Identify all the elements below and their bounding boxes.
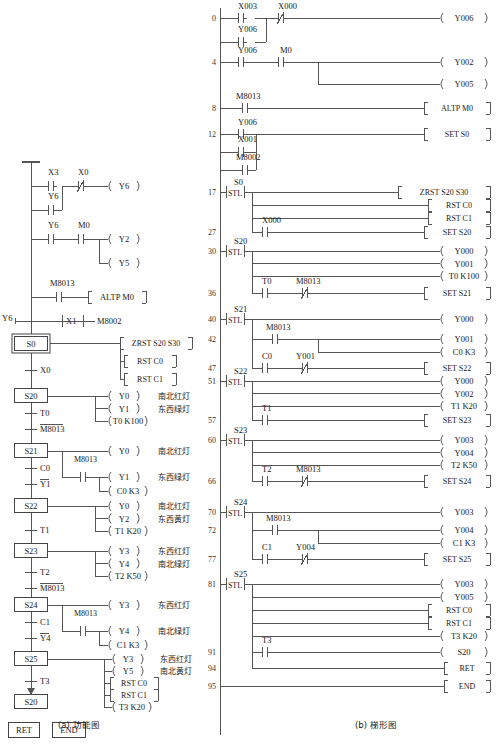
label-T0-S20: T0 (262, 276, 271, 286)
coil-y5-rparen (137, 258, 139, 268)
stl-s24-text: STL (228, 509, 242, 518)
label-y006-r12: Y006 (238, 117, 257, 127)
coil-S22-1-rparen (485, 389, 487, 399)
transition-label-C1: C1 (40, 617, 50, 627)
stl-S20-text: STL (228, 248, 242, 257)
coil-y6-label: Y6 (119, 181, 129, 191)
transition-label-X0: X0 (40, 365, 50, 375)
coil-s25-label-1: Y5 (123, 666, 133, 676)
coil-s25-1-label: Y005 (455, 592, 474, 602)
coil-S20-0-label: Y000 (455, 246, 474, 256)
coil-s20-1-lparen (109, 404, 111, 414)
coil-s25-4-lparen (441, 631, 443, 641)
coil-s21-2-rparen (145, 486, 147, 496)
box-set-s20-label: SET S20 (443, 228, 472, 237)
coil-S22-0-lparen (441, 376, 443, 386)
coil-s22-2-lparen (109, 526, 111, 536)
coil-y6-rparen (137, 181, 139, 191)
line-number-91: 91 (208, 648, 216, 657)
coil-y2-rparen (137, 234, 139, 244)
coil-s22-label-2: T1 K20 (115, 526, 141, 536)
label-y6-entry: Y6 (2, 313, 12, 323)
line-number-81: 81 (208, 580, 216, 589)
stl-s21-label: S21 (234, 304, 247, 314)
coil-s25-1-rparen (485, 592, 487, 602)
label-m0-r4: M0 (280, 45, 292, 55)
coil-y006-r0-label: Y006 (455, 13, 474, 23)
transition-label-M8013: M8013 (40, 583, 65, 593)
coil-S23-2-lparen (441, 460, 443, 470)
coil-s25-0-label: Y003 (455, 579, 474, 589)
coil-s21-1-lparen (441, 334, 443, 344)
label-c1-s24: C1 (262, 542, 272, 552)
state-box-s20-return[interactable]: S20 (14, 694, 48, 709)
box-rst-c1-r17-label: RST C1 (446, 214, 472, 223)
state-box-s24[interactable]: S24 (14, 597, 48, 612)
coil-s23-0-lparen (109, 546, 111, 556)
label-y6-par: Y6 (48, 191, 58, 201)
coil-s24-1-label: Y004 (455, 525, 475, 535)
note-s25-0: 东西红灯 (160, 654, 192, 664)
transition-label-Y4: Y4 (40, 633, 51, 643)
coil-s25-4-label: T3 K20 (451, 631, 477, 641)
state-box-s21[interactable]: S21 (14, 443, 48, 458)
state-box-s22[interactable]: S22 (14, 498, 48, 513)
note-s20-1: 东西绿灯 (158, 404, 190, 414)
state-box-s20[interactable]: S20 (14, 388, 48, 403)
box-rst-c0-s25-label: RST C0 (446, 606, 472, 615)
state-box-s25[interactable]: S25 (14, 651, 48, 666)
state-label: S20 (24, 697, 37, 707)
coil-y6-lparen (109, 181, 111, 191)
label-x001: X001 (238, 134, 257, 144)
coil-y5-label: Y5 (119, 258, 129, 268)
line-number-4: 4 (212, 58, 216, 67)
coil-s24-2-lparen (441, 538, 443, 548)
coil-S23-0-label: Y003 (455, 435, 474, 445)
coil-s22-label-0: Y0 (119, 501, 129, 511)
transition-label-Y1: Y1 (40, 479, 50, 489)
coil-s25-1-lparen (441, 592, 443, 602)
coil-s20-label-1: Y1 (119, 404, 129, 414)
state-box-s0[interactable]: S0 (14, 336, 48, 351)
stl-S20-label: S20 (234, 236, 247, 246)
line-number-12: 12 (208, 130, 216, 139)
note-s23-1: 南北绿灯 (158, 559, 190, 569)
coil-s21-0-lparen (109, 446, 111, 456)
coil-s23-label-1: Y4 (119, 559, 130, 569)
coil-s22-label-1: Y2 (119, 514, 129, 524)
coil-s24-2-lparen (109, 640, 111, 650)
caption-b: (b) 梯形图 (355, 718, 397, 730)
coil-S23-0-lparen (441, 435, 443, 445)
line-number-60: 60 (208, 436, 216, 445)
coil-s23-label-2: T2 K50 (115, 571, 141, 581)
box-SET-S24-label: SET S24 (443, 477, 472, 486)
coil-s24-1-lparen (109, 626, 111, 636)
box-set-s0-label: SET S0 (445, 130, 470, 139)
line-number-72: 72 (208, 526, 216, 535)
state-box-s23[interactable]: S23 (14, 543, 48, 558)
coil-S23-2-rparen (485, 460, 487, 470)
coil-s24-2-label: C1 K3 (453, 538, 475, 548)
ret-box[interactable]: RET (8, 722, 40, 738)
coil-s21-2-lparen (109, 486, 111, 496)
label-M8013-S20: M8013 (296, 276, 321, 286)
state-label: S25 (24, 654, 37, 664)
stl-S22-text: STL (228, 378, 242, 387)
coil-s22-1-rparen (137, 514, 139, 524)
line-number-77: 77 (208, 555, 216, 564)
box-end-label: END (459, 682, 476, 691)
state-label: S22 (24, 501, 37, 511)
coil-S22-0-label: Y000 (455, 376, 474, 386)
coil-s20-jump-label: S20 (457, 647, 470, 657)
coil-s20-0-rparen (137, 391, 139, 401)
coil-S23-0-rparen (485, 435, 487, 445)
coil-s20-1-rparen (137, 404, 139, 414)
label-y001-s21: Y001 (296, 351, 315, 361)
coil-s20-2-lparen (109, 416, 111, 426)
coil-s24-2-rparen (485, 538, 487, 548)
coil-s21-1-rparen (137, 472, 139, 482)
state-label: S20 (24, 391, 37, 401)
coil-s22-0-rparen (137, 501, 139, 511)
coil-s21-0-label: Y000 (455, 314, 474, 324)
coil-s20-jump-lparen (441, 647, 443, 657)
